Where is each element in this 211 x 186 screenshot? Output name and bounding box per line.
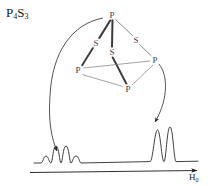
figure-canvas bbox=[0, 0, 211, 186]
axis-label-h0-sub: 0 bbox=[196, 177, 199, 183]
compound-subscript-3: 3 bbox=[24, 12, 28, 21]
annotation-arrows bbox=[49, 18, 165, 151]
bond-Sright-Pbasalright bbox=[139, 44, 152, 56]
compound-subscript-4: 4 bbox=[13, 12, 17, 21]
atom-label-s-center: S bbox=[108, 48, 115, 57]
bond-Pbasalright-Pbasalbottom bbox=[132, 65, 153, 85]
spectrum-curve bbox=[34, 127, 198, 163]
bond-Scenter-Pbasalbottom bbox=[113, 57, 127, 84]
atom-label-p-basal-bottom: P bbox=[124, 85, 131, 94]
bond-Papical-Sright bbox=[116, 20, 134, 37]
atom-label-p-basal-left: P bbox=[74, 66, 81, 75]
spectrum-trace bbox=[30, 127, 198, 173]
atom-label-s-left: S bbox=[92, 39, 99, 48]
atom-label-p-apical: P bbox=[108, 11, 115, 20]
atom-label-p-basal-right: P bbox=[151, 56, 158, 65]
bond-Sleft-Pbasalleft bbox=[82, 47, 94, 66]
atom-label-s-right: S bbox=[132, 36, 139, 45]
bond-Papical-Sleft bbox=[99, 20, 111, 39]
axis-label-h0: H0 bbox=[189, 173, 199, 182]
spectrum-baseline-axis bbox=[30, 171, 197, 173]
arrow-basal-to-doublet bbox=[155, 64, 166, 122]
p4s3-nmr-figure: P4S3 P S S S P P P H0 bbox=[0, 0, 211, 186]
molecule-bonds bbox=[82, 20, 153, 87]
bond-Papical-Scenter bbox=[112, 20, 113, 47]
axis-label-h0-main: H bbox=[189, 172, 196, 182]
compound-formula: P4S3 bbox=[6, 6, 28, 19]
bond-Pbasalleft-Pbasalbottom bbox=[82, 75, 123, 87]
